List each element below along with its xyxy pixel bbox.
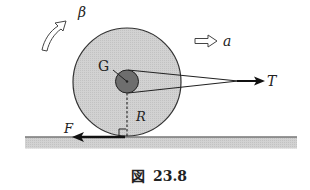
hollow-right-arrow-icon: [195, 35, 217, 47]
tension-arrow: [237, 77, 265, 86]
curved-hollow-arrow-icon: [42, 21, 66, 51]
friction-label: F: [63, 121, 74, 136]
figure-caption: 図 23.8: [131, 168, 187, 184]
angular-acceleration-label: β: [77, 4, 86, 20]
caption-number: 23.8: [153, 168, 187, 184]
acceleration-label: a: [223, 33, 231, 49]
radius-label: R: [135, 109, 146, 124]
center-label: G: [98, 58, 109, 74]
ground-surface: [25, 138, 297, 149]
ground: [25, 137, 297, 149]
rolling-disk-diagram: T R F G a β 図 23.8: [0, 0, 310, 190]
caption-prefix: 図: [131, 168, 145, 184]
center-point: [126, 80, 128, 82]
tension-label: T: [267, 73, 278, 89]
